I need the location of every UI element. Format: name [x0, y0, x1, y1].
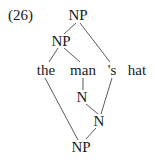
word-man: man	[70, 63, 96, 78]
tree-edges	[0, 0, 155, 160]
edge-n-lower-to-np-bottom	[86, 128, 96, 139]
edge-np-inner-to-the	[49, 48, 58, 62]
node-np-top: NP	[68, 8, 87, 23]
node-n-lower: N	[94, 114, 105, 129]
edge-s-to-n-lower	[101, 78, 112, 114]
edge-np-inner-to-man	[64, 48, 80, 62]
edge-np-top-to-s	[80, 23, 110, 62]
node-np-inner: NP	[51, 34, 70, 49]
word-the: the	[37, 63, 55, 78]
word-hat: hat	[128, 63, 146, 78]
node-np-bottom: NP	[71, 140, 90, 155]
word-possessive-s: 's	[108, 63, 117, 78]
node-n-middle: N	[77, 90, 88, 105]
edge-the-to-np-bottom	[45, 78, 78, 140]
example-number: (26)	[8, 8, 33, 23]
syntax-tree-diagram: (26) NP NP the man 's hat N N NP	[0, 0, 155, 160]
